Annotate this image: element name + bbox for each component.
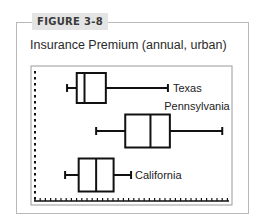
y-axis-tick: [34, 155, 36, 158]
y-axis-tick: [34, 71, 36, 74]
y-axis-tick: [34, 173, 36, 176]
y-axis-tick: [34, 107, 36, 110]
y-axis-tick: [34, 113, 36, 116]
y-axis-tick: [34, 143, 36, 146]
y-axis-tick: [34, 125, 36, 128]
series-label: California: [135, 169, 182, 181]
y-axis-tick: [34, 101, 36, 104]
y-axis-tick: [34, 167, 36, 170]
boxplot-california: California: [65, 159, 182, 192]
y-axis-tick: [34, 95, 36, 98]
plot-axes: [31, 66, 232, 205]
y-axis-tick: [34, 131, 36, 134]
iqr-box: [77, 73, 106, 103]
y-axis-tick: [34, 77, 36, 80]
iqr-box: [125, 115, 170, 148]
y-axis-tick: [34, 119, 36, 122]
y-axis-tick: [34, 137, 36, 140]
boxplot-texas: Texas: [67, 73, 202, 103]
y-axis-tick: [34, 149, 36, 152]
y-axis-tick: [34, 83, 36, 86]
plot-area-border: [31, 66, 232, 205]
y-axis-tick: [34, 179, 36, 182]
series-label: Pennsylvania: [164, 100, 230, 112]
y-axis-tick: [34, 89, 36, 92]
y-axis-tick: [34, 161, 36, 164]
y-axis-tick: [34, 191, 36, 194]
boxplot-chart: TexasPennsylvaniaCalifornia: [0, 0, 265, 223]
series-label: Texas: [173, 82, 202, 94]
boxplots: TexasPennsylvaniaCalifornia: [65, 73, 230, 192]
y-axis-tick: [34, 185, 36, 188]
boxplot-pennsylvania: Pennsylvania: [96, 100, 230, 148]
